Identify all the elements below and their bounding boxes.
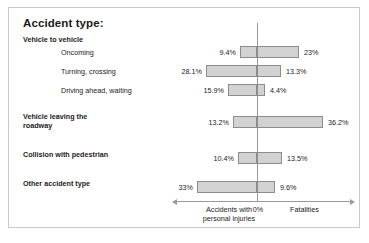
- value-turning-crossing-left: 28.1%: [156, 67, 202, 76]
- page-title: Accident type:: [23, 17, 104, 29]
- value-oncoming-left: 9.4%: [190, 48, 236, 57]
- bar-turning-crossing-right: [257, 65, 281, 77]
- bar-other-accident-left: [197, 181, 257, 193]
- value-other-accident-right: 9.6%: [280, 183, 296, 192]
- item-label-driving-ahead-waiting: Driving ahead, waiting: [61, 87, 132, 96]
- value-turning-crossing-right: 13.3%: [286, 67, 306, 76]
- bar-other-accident-right: [257, 181, 275, 193]
- bar-collision-pedestrian-left: [238, 152, 257, 164]
- item-label-turning-crossing: Turning, crossing: [61, 68, 116, 77]
- bar-vehicle-leaving-roadway-right: [257, 116, 323, 128]
- value-driving-ahead-right: 4.4%: [270, 86, 286, 95]
- bar-collision-pedestrian-right: [257, 152, 282, 164]
- item-label-oncoming: Oncoming: [61, 49, 94, 58]
- value-other-accident-left: 33%: [149, 183, 193, 192]
- axis-label-fatalities: Fatalities: [290, 205, 319, 214]
- group-label-other-accident-type: Other accident type: [23, 180, 90, 189]
- bar-turning-crossing-left: [206, 65, 257, 77]
- group-label-collision-with-pedestrian: Collision with pedestrian: [23, 151, 108, 160]
- group-label-vehicle-to-vehicle: Vehicle to vehicle: [23, 36, 83, 45]
- value-collision-pedestrian-left: 10.4%: [188, 154, 234, 163]
- axis-arrow-right-icon: [350, 199, 355, 205]
- value-vehicle-leaving-roadway-right: 36.2%: [328, 118, 348, 127]
- value-driving-ahead-left: 15.9%: [178, 86, 224, 95]
- bar-driving-ahead-left: [228, 84, 257, 96]
- value-collision-pedestrian-right: 13.5%: [287, 154, 307, 163]
- value-vehicle-leaving-roadway-left: 13.2%: [183, 118, 229, 127]
- bar-driving-ahead-right: [257, 84, 265, 96]
- bar-oncoming-right: [257, 46, 299, 58]
- value-oncoming-right: 23%: [304, 48, 318, 57]
- group-label-vehicle-leaving-roadway: Vehicle leaving the roadway: [23, 113, 87, 130]
- bar-oncoming-left: [240, 46, 257, 58]
- chart-frame: Accident type: Vehicle to vehicle Oncomi…: [8, 7, 360, 228]
- horizontal-axis-line: [176, 201, 352, 202]
- axis-arrow-left-icon: [172, 199, 177, 205]
- bar-vehicle-leaving-roadway-left: [233, 116, 257, 128]
- axis-label-zero: 0%: [249, 205, 267, 214]
